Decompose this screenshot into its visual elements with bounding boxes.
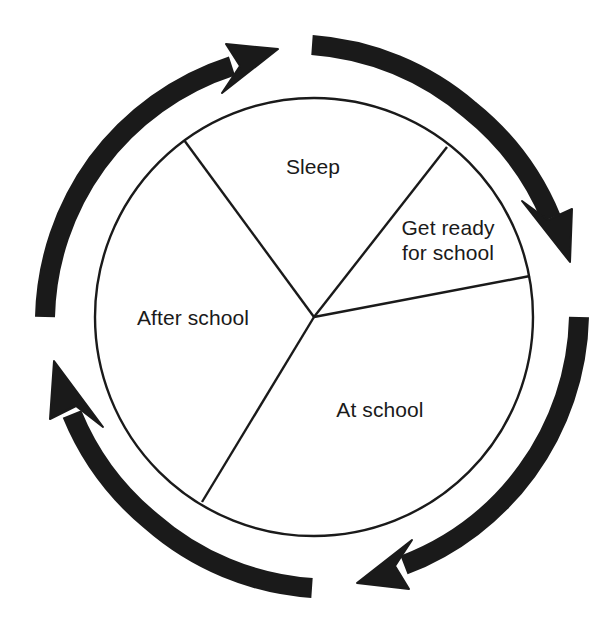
segment-label-get-ready: Get readyfor school [388,216,508,266]
segment-label-at-school: At school [320,398,440,423]
cycle-diagram: Sleep Get readyfor school At school Afte… [0,0,613,628]
segment-label-sleep: Sleep [243,155,383,180]
segment-label-get-ready-line2: for school [402,241,494,264]
segment-label-get-ready-line1: Get ready [401,216,494,239]
segment-label-after-school: After school [128,306,258,331]
diagram-canvas [0,0,613,628]
